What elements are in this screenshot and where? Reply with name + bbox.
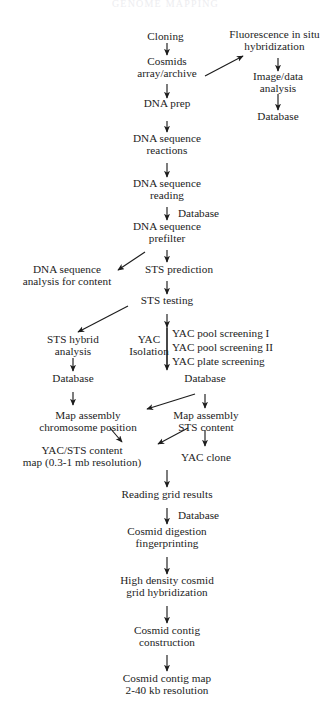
node-image-data-analysis: Image/data analysis (226, 70, 330, 94)
cropped-page-header: GENOME MAPPING (0, 0, 331, 7)
node-dna-prep: DNA prep (110, 97, 224, 109)
node-database-fish: Database (226, 110, 330, 122)
node-high-density-cosmid-grid-hybridization: High density cosmid grid hybridization (94, 574, 240, 598)
flowchart-figure: GENOME MAPPING (0, 0, 331, 722)
node-yac-pool-screening-1: YAC pool screening I (172, 327, 269, 339)
node-cosmid-digestion-fingerprinting: Cosmid digestion fingerprinting (100, 525, 234, 549)
node-dna-sequence-reactions: DNA sequence reactions (105, 132, 229, 156)
node-reading-grid-results: Reading grid results (90, 488, 244, 500)
node-database-sts-hybrid: Database (32, 372, 114, 384)
node-cosmid-contig-construction: Cosmid contig construction (106, 624, 228, 648)
node-yac-sts-content-map: YAC/STS content map (0.3-1 mb resolution… (2, 444, 162, 468)
label-database-grid: Database (178, 509, 219, 521)
node-cosmid-contig-map: Cosmid contig map 2-40 kb resolution (96, 672, 238, 696)
node-sts-hybrid-analysis: STS hybrid analysis (32, 333, 114, 357)
node-yac-pool-screening-2: YAC pool screening II (172, 341, 273, 353)
node-map-assembly-chromosome-position: Map assembly chromosome position (8, 409, 168, 433)
node-fluorescence-in-situ-hybridization: Fluorescence in situ hybridization (218, 28, 331, 52)
node-yac-clone: YAC clone (160, 451, 252, 463)
node-sts-prediction: STS prediction (124, 263, 234, 275)
node-yac-plate-screening: YAC plate screening (172, 355, 265, 367)
node-yac-isolation: YAC Isolation (118, 333, 180, 357)
node-dna-sequence-reading: DNA sequence reading (105, 177, 229, 201)
label-database-prefilter: Database (178, 207, 219, 219)
node-dna-sequence-analysis-for-content: DNA sequence analysis for content (6, 263, 128, 287)
node-cosmids-array-archive: Cosmids array/archive (110, 55, 224, 79)
node-database-yac: Database (160, 372, 250, 384)
node-map-assembly-sts-content: Map assembly STS content (158, 409, 254, 433)
arrow-yacdatabase-to-mapassembly-chrom (147, 394, 195, 409)
arrow-ststesting-to-stshybrid (78, 306, 128, 332)
node-dna-sequence-prefilter: DNA sequence prefilter (105, 220, 229, 244)
node-sts-testing: STS testing (124, 294, 210, 306)
